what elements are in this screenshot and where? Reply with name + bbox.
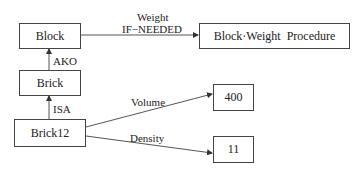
edge-label-weight: Weight [137,12,169,23]
node-volume-value: 400 [213,84,254,111]
edge-label-density: Density [130,133,164,144]
node-brick: Brick [19,70,81,96]
node-block-weight-procedure: Block·Weight Procedure [199,23,350,49]
edge-label-isa: ISA [53,104,71,115]
node-brick12: Brick12 [14,119,86,147]
edge-label-if-needed: IF−NEEDED [122,24,182,35]
node-block: Block [19,23,81,49]
edge-label-volume: Volume [131,97,165,108]
node-density-value: 11 [213,136,254,163]
edge-label-ako: AKO [53,56,77,67]
